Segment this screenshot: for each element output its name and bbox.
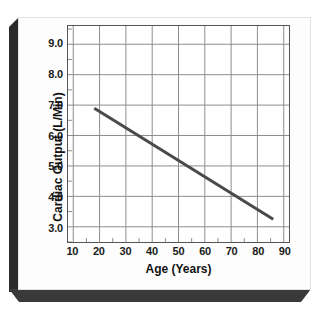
x-tick-label: 80 bbox=[252, 245, 264, 257]
data-line bbox=[94, 108, 273, 219]
x-tick-label: 30 bbox=[119, 245, 131, 257]
x-axis-title: Age (Years) bbox=[67, 262, 290, 276]
x-tick-label: 90 bbox=[279, 245, 291, 257]
x-tick-label: 10 bbox=[66, 245, 78, 257]
plot-canvas bbox=[68, 26, 289, 242]
y-tick-label: 9.0 bbox=[48, 37, 63, 49]
y-axis-title: Cardiac Output (L/Min) bbox=[51, 77, 65, 237]
card-bevel-bottom bbox=[9, 289, 311, 302]
plot-area bbox=[67, 25, 290, 243]
x-tick-label: 60 bbox=[199, 245, 211, 257]
x-tick-label: 50 bbox=[173, 245, 185, 257]
chart-screenshot: 3.04.05.06.07.08.09.0 102030405060708090… bbox=[0, 0, 325, 316]
x-tick-label: 20 bbox=[93, 245, 105, 257]
x-tick-label: 40 bbox=[146, 245, 158, 257]
x-tick-label: 70 bbox=[226, 245, 238, 257]
x-axis-tick-labels: 102030405060708090 bbox=[67, 245, 290, 261]
y-axis-title-host: Cardiac Output (L/Min) bbox=[33, 25, 47, 243]
